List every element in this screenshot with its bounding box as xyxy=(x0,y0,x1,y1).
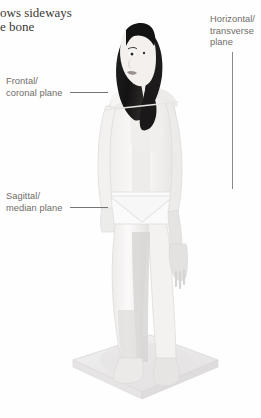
label-horizontal-line-1: Horizontal/ xyxy=(210,14,255,26)
leader-line-horizontal xyxy=(232,52,233,189)
label-sagittal-median-plane: Sagittal/ median plane xyxy=(6,191,62,214)
pelvis xyxy=(109,188,175,224)
figure-page: ows sideways e bone xyxy=(0,0,261,418)
label-frontal-line-2: coronal plane xyxy=(6,88,62,100)
label-horizontal-line-2: transverse xyxy=(210,26,255,38)
body-copy-line-clipped xyxy=(0,0,120,5)
leader-line-frontal xyxy=(70,92,108,93)
legs xyxy=(112,220,176,362)
label-frontal-coronal-plane: Frontal/ coronal plane xyxy=(6,76,62,99)
label-sagittal-line-2: median plane xyxy=(6,203,62,215)
label-horizontal-transverse-plane: Horizontal/ transverse plane xyxy=(210,14,255,49)
leader-line-sagittal xyxy=(70,207,108,208)
label-frontal-line-1: Frontal/ xyxy=(6,76,62,88)
label-sagittal-line-1: Sagittal/ xyxy=(6,191,62,203)
label-horizontal-line-3: plane xyxy=(210,37,255,49)
anatomical-figure xyxy=(58,10,233,410)
